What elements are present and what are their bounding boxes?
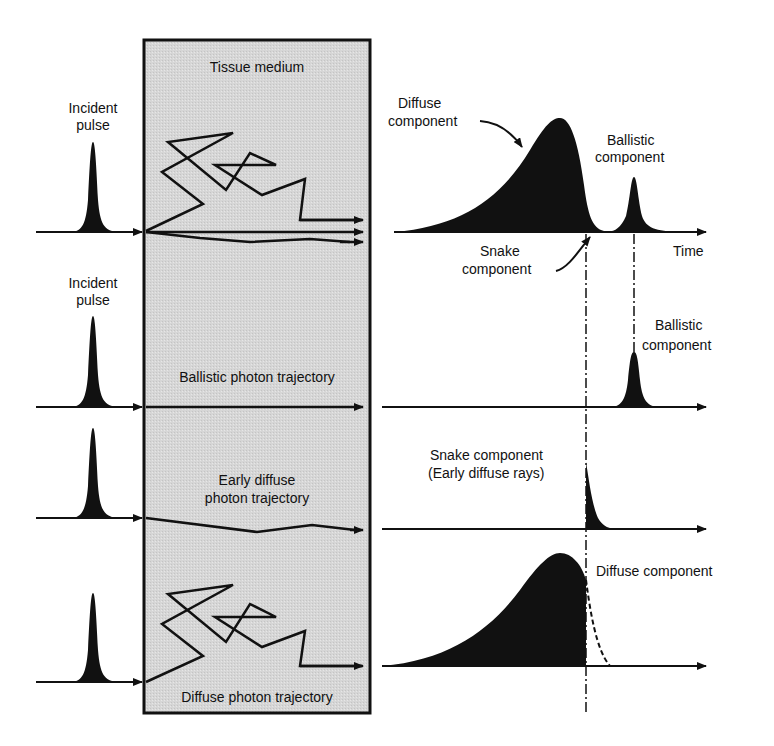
ballistic-trajectory-label: Ballistic photon trajectory (179, 369, 335, 385)
ballistic-component-label-line2: component (642, 337, 711, 353)
incident-pulse-label-line1: Incident (68, 100, 117, 116)
incident-pulse-label-line2: pulse (76, 292, 110, 308)
diffuse-trajectory-label: Diffuse photon trajectory (181, 689, 333, 705)
time-axis-label: Time (673, 243, 704, 259)
snake-component-shape (586, 462, 614, 529)
ballistic-component-label-line1: Ballistic (607, 132, 654, 148)
diffuse-component-label-line1: Diffuse (398, 95, 442, 111)
ballistic-component-label-line1: Ballistic (655, 317, 702, 333)
diffuse-component-label: Diffuse component (596, 563, 713, 579)
incident-pulse-shape (72, 593, 118, 682)
row-ballistic: Incident pulse Ballistic photon trajecto… (36, 275, 711, 407)
incident-pulse-shape (72, 142, 118, 232)
snake-component-label-line1: Snake (480, 243, 520, 259)
diffuse-pointer-arrow (480, 121, 522, 147)
early-diffuse-trajectory-label-line1: Early diffuse (219, 472, 296, 488)
early-diffuse-trajectory-label-line2: photon trajectory (205, 490, 309, 506)
diffuse-component-label-line2: component (388, 113, 457, 129)
ballistic-component-label-line2: component (595, 149, 664, 165)
tissue-medium-label: Tissue medium (210, 59, 304, 75)
snake-component-label-line1: Snake component (430, 447, 543, 463)
snake-component-label-line2: component (462, 261, 531, 277)
incident-pulse-shape (72, 316, 118, 407)
incident-pulse-label-line2: pulse (76, 117, 110, 133)
diffuse-tail-dashed (586, 580, 610, 666)
incident-pulse-label-line1: Incident (68, 275, 117, 291)
ballistic-component-shape (612, 352, 658, 407)
snake-pointer-arrow (556, 237, 590, 271)
row-diffuse: Diffuse photon trajectory Diffuse compon… (36, 553, 713, 705)
incident-pulse-shape (72, 428, 118, 518)
photon-trajectory-diagram: Tissue medium Incident pulse Diffuse com… (0, 0, 774, 746)
snake-component-label-line2: (Early diffuse rays) (428, 465, 544, 481)
diffuse-component-shape (382, 553, 586, 666)
